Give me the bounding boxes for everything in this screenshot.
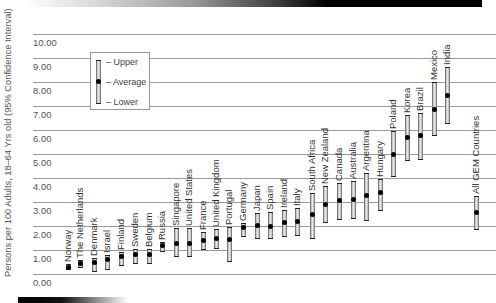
category-label: Australia (347, 142, 358, 179)
average-marker (337, 198, 342, 203)
category-label: Portugal (223, 190, 234, 225)
category-label: Mexico (428, 50, 439, 80)
legend-label-upper: Upper (114, 57, 139, 67)
average-marker (445, 93, 450, 98)
average-marker (241, 225, 246, 230)
category-label: India (441, 45, 452, 66)
average-marker (66, 265, 71, 270)
category-label: Poland (387, 100, 398, 130)
category-label: Hungary (374, 141, 385, 177)
average-marker (268, 224, 273, 229)
average-marker (119, 254, 124, 259)
y-tick-label: 2.00 (33, 229, 52, 240)
category-label: South Africa (306, 140, 317, 191)
average-marker (323, 202, 328, 207)
category-label: United States (183, 169, 194, 226)
y-tick-label: 9.00 (33, 61, 52, 72)
category-label: Spain (264, 185, 275, 209)
category-label: The Netherlands (74, 188, 85, 258)
gridline (33, 274, 496, 275)
average-marker (78, 261, 83, 266)
y-tick-label: 6.00 (33, 133, 52, 144)
y-tick-label: 1.00 (33, 253, 52, 264)
category-label: Sweden (129, 212, 140, 246)
category-label: Belgium (143, 212, 154, 246)
average-marker (391, 152, 396, 157)
error-bar (227, 227, 232, 262)
legend-average-dot-icon (96, 79, 101, 84)
y-tick-label: 5.00 (33, 157, 52, 168)
legend-item-upper: – Upper (106, 57, 138, 67)
category-label: Ireland (278, 179, 289, 208)
average-marker (364, 193, 369, 198)
average-marker (174, 241, 179, 246)
error-bar (378, 179, 383, 211)
average-marker (255, 223, 260, 228)
legend-item-lower: – Lower (106, 97, 138, 107)
average-marker (405, 135, 410, 140)
y-tick-label: 3.00 (33, 205, 52, 216)
error-bar-chart: 0.001.002.003.004.005.006.007.008.009.00… (0, 0, 496, 303)
category-label: Italy (291, 189, 302, 206)
average-marker (133, 252, 138, 257)
chart-legend: – Upper – Average – Lower (90, 52, 150, 110)
gridline (33, 178, 496, 179)
legend-label-average: Average (113, 77, 146, 87)
legend-label-lower: Lower (114, 97, 139, 107)
average-marker (187, 241, 192, 246)
category-label: Russia (156, 211, 167, 240)
average-marker (474, 210, 479, 215)
average-marker (160, 243, 165, 248)
y-tick-label: 4.00 (33, 181, 52, 192)
category-label: United Kingdom (210, 160, 221, 228)
category-label: Japan (251, 185, 262, 211)
category-label: Canada (333, 148, 344, 181)
average-marker (105, 257, 110, 262)
gridline (33, 34, 496, 35)
gridline (33, 226, 496, 227)
category-label: New Zealand (319, 128, 330, 184)
y-tick-label: 0.00 (33, 277, 52, 288)
average-marker (378, 190, 383, 195)
category-label: Argentina (360, 131, 371, 172)
y-tick-label: 8.00 (33, 85, 52, 96)
y-tick-label: 7.00 (33, 109, 52, 120)
category-label: Germany (237, 182, 248, 221)
average-marker (201, 238, 206, 243)
category-label: Korea (401, 88, 412, 113)
category-label: Brazil (414, 88, 425, 112)
category-label: Singapore (170, 183, 181, 226)
average-marker (214, 236, 219, 241)
average-marker (295, 219, 300, 224)
gridline (33, 130, 496, 131)
category-label: Norway (62, 230, 73, 262)
category-label: Finland (115, 219, 126, 250)
average-marker (432, 107, 437, 112)
category-label: Denmark (88, 218, 99, 257)
average-marker (147, 252, 152, 257)
average-marker (351, 197, 356, 202)
category-label: All GEM Countries (470, 116, 481, 194)
y-tick-label: 10.00 (33, 37, 57, 48)
category-label: France (197, 200, 208, 230)
category-label: Israel (101, 230, 112, 253)
legend-item-average: – Average (106, 77, 146, 87)
average-marker (282, 220, 287, 225)
gridline (33, 154, 496, 155)
average-marker (92, 260, 97, 265)
average-marker (418, 133, 423, 138)
average-marker (227, 237, 232, 242)
